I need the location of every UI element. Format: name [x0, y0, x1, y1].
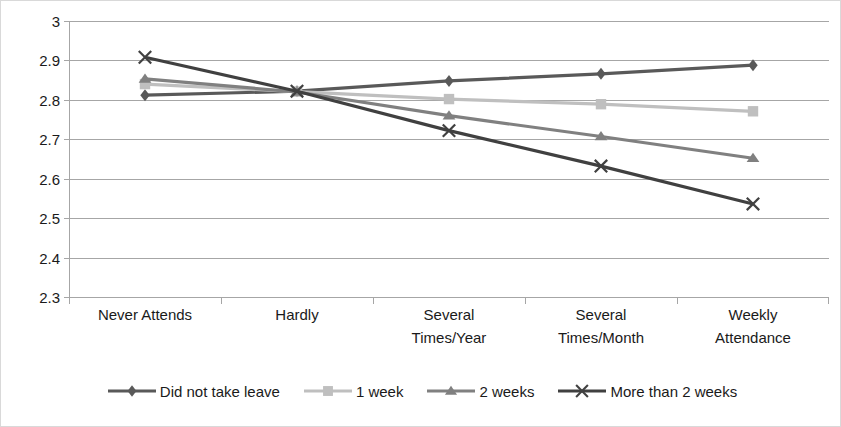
x-axis-label-line: Never Attends — [69, 303, 221, 326]
x-axis-label-line: Several — [373, 303, 525, 326]
series-layer — [69, 21, 829, 297]
x-axis-label-line: Several — [525, 303, 677, 326]
x-axis-label: WeeklyAttendance — [677, 303, 829, 349]
legend-item: 1 week — [302, 382, 404, 400]
data-point-marker — [444, 94, 454, 104]
plot-area: 2.32.42.52.62.72.82.93 — [69, 21, 829, 297]
y-tick-label: 2.9 — [39, 52, 60, 69]
x-axis-label: SeveralTimes/Month — [525, 303, 677, 349]
plot-area-wrapper: 2.32.42.52.62.72.82.93 — [69, 21, 829, 297]
chart-legend: Did not take leave1 week2 weeksMore than… — [1, 371, 841, 411]
y-tick-label: 2.7 — [39, 131, 60, 148]
x-axis-label: Never Attends — [69, 303, 221, 326]
legend-item: 2 weeks — [425, 382, 534, 400]
y-tick-label: 2.6 — [39, 170, 60, 187]
y-tick-label: 2.3 — [39, 289, 60, 306]
legend-marker-triangle-icon — [425, 382, 477, 400]
data-point-marker — [444, 75, 453, 87]
legend-label: 1 week — [356, 383, 404, 400]
x-axis-labels: Never AttendsHardlySeveralTimes/YearSeve… — [69, 303, 829, 361]
data-point-marker — [748, 59, 757, 71]
y-tick-label: 2.5 — [39, 210, 60, 227]
y-tick-label: 2.4 — [39, 249, 60, 266]
data-point-marker — [596, 68, 605, 80]
x-axis-label-line: Times/Year — [373, 326, 525, 349]
data-point-marker — [748, 106, 758, 116]
x-axis-label-line: Hardly — [221, 303, 373, 326]
legend-item: More than 2 weeks — [556, 382, 737, 400]
y-tick-label: 2.8 — [39, 91, 60, 108]
legend-label: 2 weeks — [479, 383, 534, 400]
x-axis-label-line: Attendance — [677, 326, 829, 349]
data-point-marker — [140, 89, 149, 101]
x-axis-label-line: Weekly — [677, 303, 829, 326]
legend-marker-x-icon — [556, 382, 608, 400]
relationship-conflict-line-chart: Relationship Conflict 2.32.42.52.62.72.8… — [0, 0, 841, 427]
x-axis-label: SeveralTimes/Year — [373, 303, 525, 349]
data-point-marker — [596, 99, 606, 109]
legend-label: Did not take leave — [160, 383, 280, 400]
x-axis-label-line: Times/Month — [525, 326, 677, 349]
y-tick-label: 3 — [52, 13, 60, 30]
gridline — [69, 297, 829, 298]
legend-marker-square-icon — [302, 382, 354, 400]
x-axis-label: Hardly — [221, 303, 373, 326]
legend-item: Did not take leave — [106, 382, 280, 400]
legend-marker-diamond-icon — [106, 382, 158, 400]
legend-label: More than 2 weeks — [610, 383, 737, 400]
